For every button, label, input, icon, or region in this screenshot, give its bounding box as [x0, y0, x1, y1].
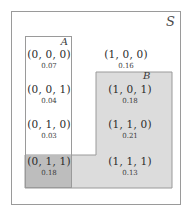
outcome-label: (1, 1, 0)	[104, 118, 156, 130]
outcome-label: (0, 1, 0)	[25, 118, 73, 130]
sample-space-label: S	[166, 14, 175, 29]
set-a-label: A	[61, 36, 68, 47]
outcome-label: (0, 0, 0)	[25, 48, 73, 60]
venn-diagram-figure: S A B (0, 0, 0) 0.07 (0, 0, 1) 0.04 (0, …	[0, 0, 192, 217]
outcome-cell: (0, 0, 0) 0.07	[25, 48, 73, 71]
outcome-cell: (1, 1, 0) 0.21	[104, 118, 156, 141]
outcome-cell: (1, 0, 1) 0.18	[104, 83, 156, 106]
outcome-probability: 0.21	[104, 131, 156, 141]
outcome-cell: (1, 1, 1) 0.13	[104, 155, 156, 178]
outcome-cell: (0, 1, 0) 0.03	[25, 118, 73, 141]
outcome-label: (1, 1, 1)	[104, 155, 156, 167]
outcome-cell: (0, 0, 1) 0.04	[25, 83, 73, 106]
outcome-probability: 0.04	[25, 96, 73, 106]
outcome-cell: (0, 1, 1) 0.18	[25, 155, 73, 178]
outcome-label: (1, 0, 0)	[100, 48, 152, 60]
outcome-probability: 0.03	[25, 131, 73, 141]
outcome-probability: 0.07	[25, 61, 73, 71]
outcome-label: (0, 1, 1)	[25, 155, 73, 167]
outcome-probability: 0.13	[104, 168, 156, 178]
outcome-probability: 0.18	[104, 96, 156, 106]
outcome-label: (0, 0, 1)	[25, 83, 73, 95]
outcome-probability: 0.18	[25, 168, 73, 178]
set-b-label: B	[143, 70, 150, 81]
outcome-cell: (1, 0, 0) 0.16	[100, 48, 152, 71]
outcome-label: (1, 0, 1)	[104, 83, 156, 95]
